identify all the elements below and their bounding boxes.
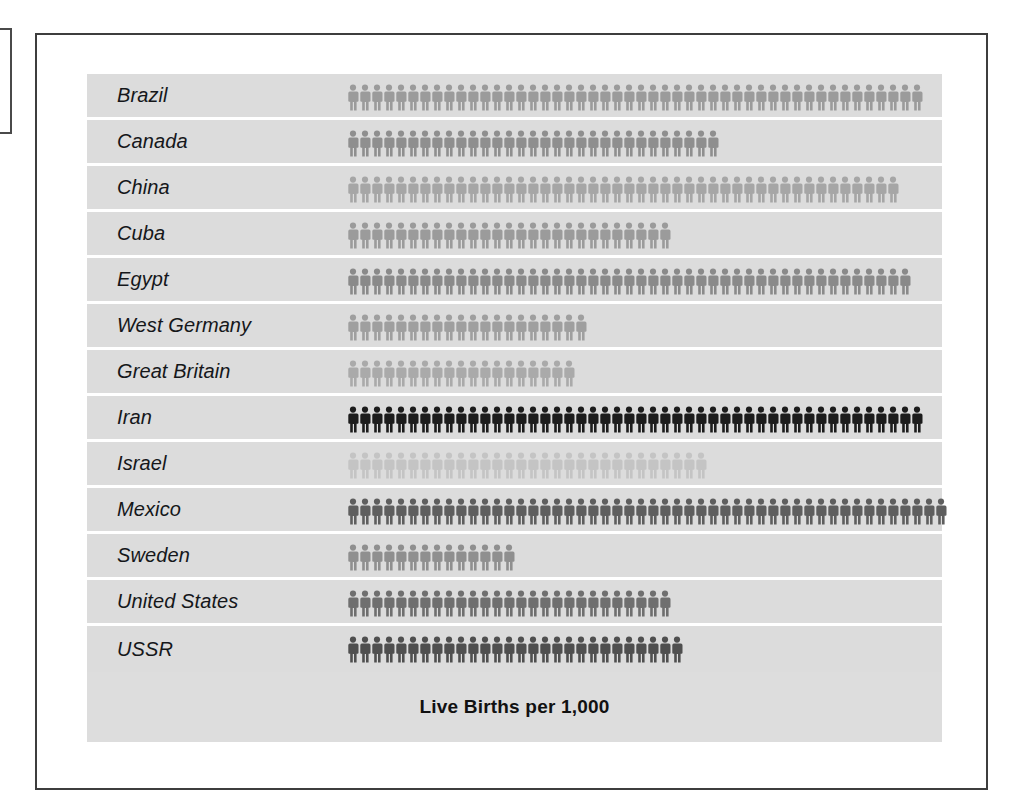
person-icon: [503, 498, 515, 525]
person-icon: [407, 360, 419, 387]
person-icon: [575, 268, 587, 295]
person-icon: [443, 452, 455, 479]
person-icon: [719, 84, 731, 111]
person-icon: [563, 84, 575, 111]
person-icon: [347, 222, 359, 249]
person-icon: [431, 84, 443, 111]
person-icon: [575, 130, 587, 157]
person-icon: [479, 636, 491, 663]
person-icon: [551, 268, 563, 295]
person-icon: [467, 544, 479, 571]
person-icon: [479, 452, 491, 479]
pictogram-group: [347, 626, 683, 672]
pictogram-group: [347, 258, 911, 304]
person-icon: [623, 222, 635, 249]
person-icon: [347, 84, 359, 111]
person-icon: [407, 498, 419, 525]
person-icon: [695, 84, 707, 111]
person-icon: [527, 84, 539, 111]
person-icon: [359, 452, 371, 479]
person-icon: [635, 636, 647, 663]
person-icon: [575, 498, 587, 525]
person-icon: [635, 84, 647, 111]
person-icon: [887, 176, 899, 203]
person-icon: [491, 590, 503, 617]
person-icon: [719, 406, 731, 433]
person-icon: [635, 130, 647, 157]
person-icon: [671, 268, 683, 295]
person-icon: [683, 498, 695, 525]
person-icon: [887, 268, 899, 295]
person-icon: [659, 268, 671, 295]
person-icon: [359, 84, 371, 111]
person-icon: [839, 84, 851, 111]
chart-row: Canada: [87, 120, 942, 166]
person-icon: [479, 544, 491, 571]
person-icon: [395, 636, 407, 663]
person-icon: [767, 268, 779, 295]
person-icon: [587, 452, 599, 479]
person-icon: [383, 130, 395, 157]
person-icon: [599, 590, 611, 617]
person-icon: [443, 636, 455, 663]
person-icon: [371, 268, 383, 295]
person-icon: [551, 84, 563, 111]
person-icon: [491, 498, 503, 525]
person-icon: [659, 636, 671, 663]
person-icon: [527, 314, 539, 341]
person-icon: [455, 314, 467, 341]
person-icon: [395, 314, 407, 341]
person-icon: [587, 130, 599, 157]
person-icon: [683, 130, 695, 157]
person-icon: [635, 498, 647, 525]
person-icon: [695, 406, 707, 433]
person-icon: [875, 498, 887, 525]
person-icon: [443, 314, 455, 341]
person-icon: [539, 84, 551, 111]
person-icon: [587, 84, 599, 111]
person-icon: [467, 222, 479, 249]
person-icon: [911, 406, 923, 433]
person-icon: [659, 590, 671, 617]
person-icon: [455, 360, 467, 387]
person-icon: [851, 84, 863, 111]
person-icon: [563, 222, 575, 249]
person-icon: [743, 406, 755, 433]
person-icon: [431, 268, 443, 295]
person-icon: [527, 130, 539, 157]
person-icon: [359, 176, 371, 203]
person-icon: [575, 176, 587, 203]
person-icon: [671, 498, 683, 525]
row-label-china: China: [87, 176, 302, 199]
person-icon: [515, 360, 527, 387]
person-icon: [731, 268, 743, 295]
person-icon: [623, 406, 635, 433]
person-icon: [779, 84, 791, 111]
chart-row: United States: [87, 580, 942, 626]
person-icon: [659, 130, 671, 157]
person-icon: [431, 406, 443, 433]
person-icon: [455, 130, 467, 157]
person-icon: [671, 130, 683, 157]
person-icon: [359, 590, 371, 617]
person-icon: [911, 498, 923, 525]
person-icon: [587, 590, 599, 617]
chart-row: Israel: [87, 442, 942, 488]
person-icon: [455, 406, 467, 433]
person-icon: [563, 406, 575, 433]
person-icon: [899, 498, 911, 525]
person-icon: [467, 406, 479, 433]
person-icon: [479, 406, 491, 433]
person-icon: [647, 176, 659, 203]
person-icon: [791, 268, 803, 295]
person-icon: [539, 636, 551, 663]
person-icon: [587, 498, 599, 525]
person-icon: [491, 222, 503, 249]
person-icon: [707, 130, 719, 157]
person-icon: [443, 498, 455, 525]
person-icon: [671, 84, 683, 111]
person-icon: [347, 176, 359, 203]
person-icon: [539, 498, 551, 525]
person-icon: [575, 406, 587, 433]
person-icon: [359, 130, 371, 157]
